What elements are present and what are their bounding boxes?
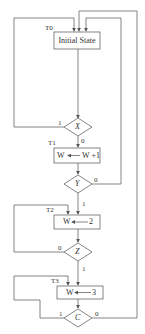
- c-false-label: 0: [95, 311, 99, 318]
- y-false-label: 0: [94, 177, 98, 184]
- x-true-label: 1: [58, 120, 62, 127]
- state-t3-rhs: 3: [92, 289, 96, 297]
- y-true-label: 1: [82, 201, 86, 208]
- decision-c-text: C: [75, 314, 80, 322]
- state-label-t3: T3: [51, 278, 59, 285]
- state-text-t0: Initial State: [54, 37, 100, 45]
- state-t3-lhs: W: [66, 289, 74, 297]
- decision-z-text: Z: [75, 248, 79, 256]
- z-false-label: 0: [58, 245, 62, 252]
- c-true-label: 1: [59, 311, 63, 318]
- decision-x-text: X: [75, 123, 80, 131]
- flowchart-canvas: [0, 0, 145, 334]
- decision-y-text: Y: [75, 180, 79, 188]
- state-label-t1: T1: [48, 140, 56, 147]
- state-t2-rhs: 2: [89, 218, 93, 226]
- z-true-label: 1: [82, 266, 86, 273]
- x-false-label: 0: [81, 138, 85, 145]
- state-t2-lhs: W: [63, 218, 71, 226]
- state-t1-lhs: W: [57, 152, 65, 160]
- state-label-t2: T2: [46, 207, 54, 214]
- state-label-t0: T0: [45, 25, 53, 32]
- state-t1-rhs: W +1: [82, 152, 100, 160]
